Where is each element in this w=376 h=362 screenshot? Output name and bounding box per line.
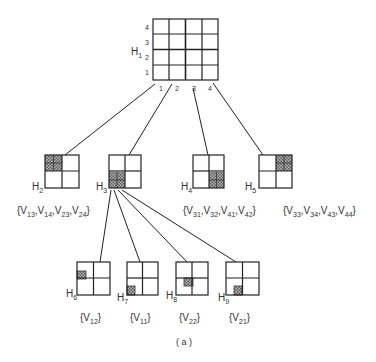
row-label-3: 3 bbox=[145, 39, 149, 46]
edge-h3-h7 bbox=[114, 190, 140, 262]
node-label-h3: H3 bbox=[96, 181, 107, 194]
set-label-h4: {V31,V32,V41,V42} bbox=[183, 205, 257, 218]
node-h5: H5 {V33,V34,V43,V44} bbox=[245, 155, 357, 218]
set-label-h2: {V13,V14,V23,V24} bbox=[17, 205, 91, 218]
row-label-2: 2 bbox=[145, 54, 149, 61]
node-label-h6: H6 bbox=[66, 288, 77, 301]
col-label-4: 4 bbox=[208, 85, 212, 92]
node-label-h4: H4 bbox=[181, 181, 192, 194]
set-label-h8: {V22} bbox=[179, 312, 201, 325]
edge-h3-h8 bbox=[118, 190, 187, 262]
node-h8: H8 {V22} bbox=[166, 262, 208, 325]
set-label-h9: {V21} bbox=[229, 312, 251, 325]
node-h1: H1 4 3 2 1 1 2 3 4 bbox=[131, 19, 218, 92]
set-label-h7: {V11} bbox=[130, 312, 151, 325]
set-label-h6: {V12} bbox=[80, 312, 102, 325]
col-label-2: 2 bbox=[175, 85, 179, 92]
node-h2: H2 {V13,V14,V23,V24} bbox=[17, 155, 91, 218]
quadtree-diagram: H1 4 3 2 1 1 2 3 4 H2 {V13,V14,V23,V24} … bbox=[0, 0, 376, 362]
col-label-1: 1 bbox=[159, 85, 163, 92]
row-label-4: 4 bbox=[145, 24, 149, 31]
node-h9: H9 {V21} bbox=[218, 262, 259, 325]
node-h7: H7 {V11} bbox=[117, 262, 158, 325]
node-label-h2: H2 bbox=[32, 181, 43, 194]
edge-h1-h2 bbox=[65, 84, 155, 155]
node-label-h5: H5 bbox=[245, 181, 256, 194]
figure-caption: ( a ) bbox=[176, 337, 192, 347]
edge-h1-h5 bbox=[213, 83, 263, 155]
edge-h3-h9 bbox=[122, 190, 236, 262]
node-label-h1: H1 bbox=[131, 46, 142, 59]
row-label-1: 1 bbox=[145, 69, 149, 76]
edge-h1-h4 bbox=[193, 88, 208, 155]
edge-h3-h6 bbox=[100, 190, 111, 262]
node-label-h9: H9 bbox=[218, 292, 229, 305]
node-h3: H3 bbox=[96, 155, 141, 194]
set-label-h5: {V33,V34,V43,V44} bbox=[283, 205, 357, 218]
edge-h1-h3 bbox=[129, 84, 172, 155]
node-h6: H6 {V12} bbox=[66, 262, 110, 325]
